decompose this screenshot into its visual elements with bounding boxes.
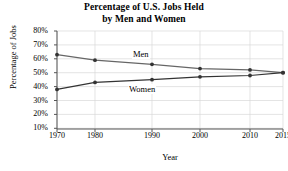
data-point-men-1970 [55, 53, 59, 57]
chart-title-line-1: Percentage of U.S. Jobs Held [0, 2, 288, 14]
y-tick-label: 70% [14, 41, 48, 49]
chart-title-line-2: by Men and Women [0, 14, 288, 26]
y-tick-label: 60% [14, 55, 48, 63]
chart-figure: Percentage of U.S. Jobs Held by Men and … [0, 0, 288, 171]
series-label-women: Women [128, 84, 156, 94]
x-tick-label: 1970 [42, 132, 72, 140]
y-tick-label: 50% [14, 69, 48, 77]
data-point-women-1980 [93, 81, 97, 85]
plot-area [57, 31, 283, 129]
x-tick-label: 1980 [80, 132, 110, 140]
x-tick-label: 2010 [235, 132, 265, 140]
data-point-men-1990 [150, 62, 154, 66]
y-tick-label: 30% [14, 97, 48, 105]
data-point-women-2015 [281, 71, 285, 75]
data-point-women-2000 [198, 75, 202, 79]
y-tick-label: 40% [14, 83, 48, 91]
data-point-men-1980 [93, 58, 97, 62]
x-tick-label: 2000 [185, 132, 215, 140]
x-tick-label: 2015 [268, 132, 288, 140]
y-tick-label: 80% [14, 27, 48, 35]
data-point-men-2000 [198, 67, 202, 71]
chart-title: Percentage of U.S. Jobs Held by Men and … [0, 2, 288, 25]
data-point-women-1970 [55, 87, 59, 91]
x-tick-label: 1990 [137, 132, 167, 140]
plot-canvas [57, 31, 283, 129]
y-tick-label: 20% [14, 110, 48, 118]
data-point-women-2010 [248, 74, 252, 78]
data-point-women-1990 [150, 78, 154, 82]
data-point-men-2010 [248, 68, 252, 72]
series-label-men: Men [132, 49, 150, 59]
x-axis-label: Year [57, 152, 283, 162]
